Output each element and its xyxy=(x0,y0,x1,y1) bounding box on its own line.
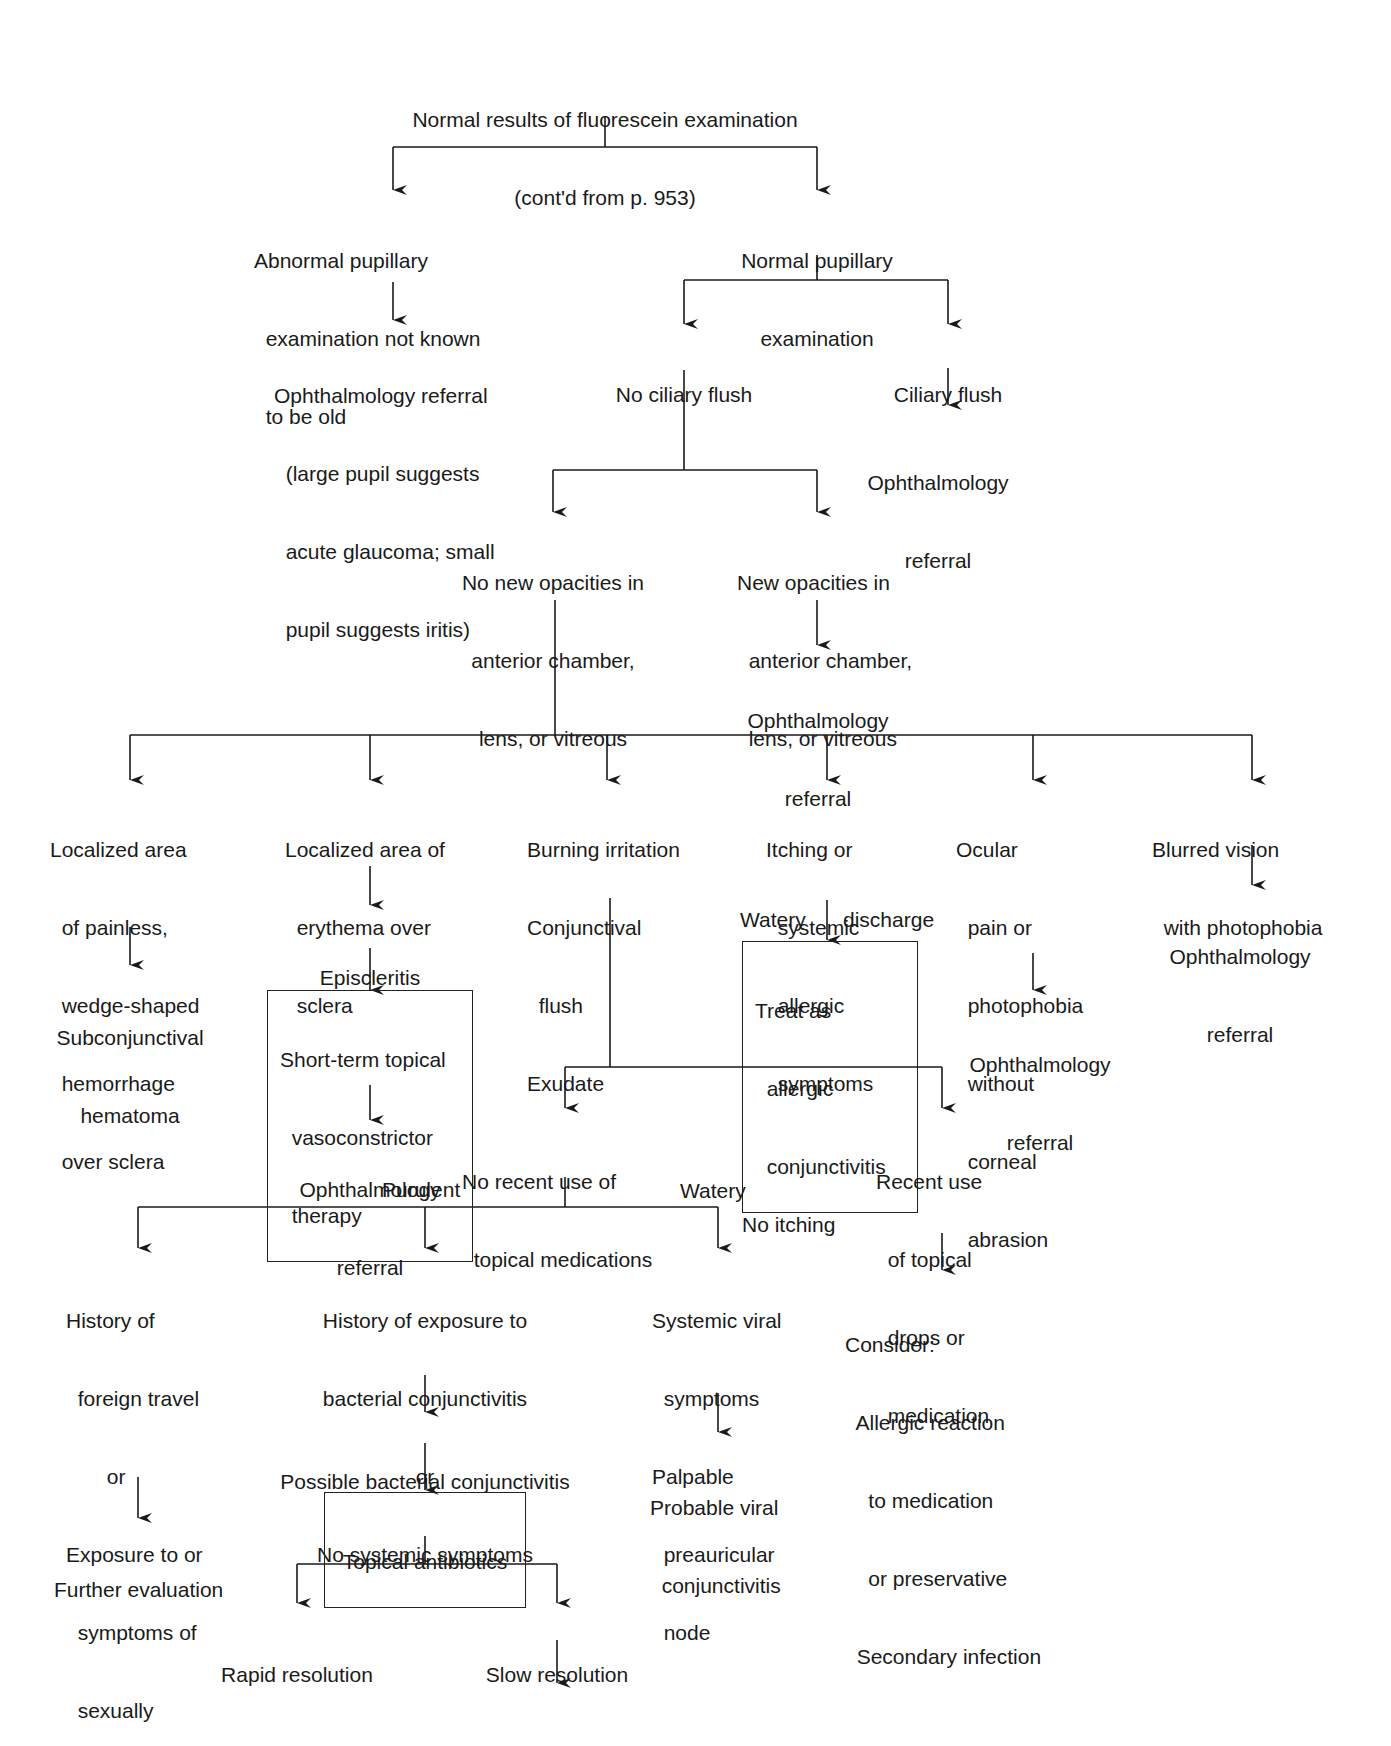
node-text: Treat as xyxy=(755,998,905,1024)
node-foreign-travel-std: History of foreign travel or Exposure to… xyxy=(66,1256,203,1746)
node-no-ciliary-flush: No ciliary flush xyxy=(584,330,784,434)
node-text: foreign travel xyxy=(66,1386,203,1412)
node-text: Recent use xyxy=(876,1169,989,1195)
node-text: Localized area xyxy=(50,837,199,863)
node-text: Ophthalmology xyxy=(858,470,1018,496)
node-text: Ocular xyxy=(956,837,1083,863)
node-text: New opacities in xyxy=(737,570,912,596)
node-text: Localized area of xyxy=(285,837,445,863)
node-subconjunctival-hematoma: Subconjunctival hematoma xyxy=(40,973,220,1155)
edge-label-discharge: discharge xyxy=(843,907,934,933)
node-text: Normal results of fluorescein examinatio… xyxy=(380,107,830,133)
node-text: Consider: xyxy=(845,1332,1041,1358)
node-text: Ophthalmology referral xyxy=(432,1742,682,1746)
node-text: Ophthalmology xyxy=(950,1052,1130,1078)
node-topical-antibiotics: Topical antibiotics xyxy=(324,1492,526,1608)
node-text: allergic xyxy=(755,1076,905,1102)
node-text: Further evaluation xyxy=(54,1577,223,1603)
node-consider: Consider: Allergic reaction to medicatio… xyxy=(845,1280,1041,1696)
node-text: No recent use of xyxy=(462,1169,652,1195)
node-text: of painless, xyxy=(50,915,199,941)
node-text: Allergic reaction xyxy=(845,1410,1041,1436)
node-text: or xyxy=(66,1464,203,1490)
node-text: Itching or xyxy=(766,837,873,863)
node-text: Ophthalmology referral xyxy=(274,383,495,409)
node-text: anterior chamber, xyxy=(448,648,658,674)
node-text: Burning irritation xyxy=(527,837,680,863)
node-text: Ophthalmology xyxy=(728,708,908,734)
node-text: No new opacities in xyxy=(448,570,658,596)
node-slow-referral: Ophthalmology referral xyxy=(432,1690,682,1746)
flowchart-canvas: Normal results of fluorescein examinatio… xyxy=(0,0,1391,1746)
edge-label-watery: Watery xyxy=(680,1178,746,1204)
edge-label-watery: Watery xyxy=(740,907,806,933)
node-text: lens, or vitreous xyxy=(448,726,658,752)
node-text: Rapid resolution xyxy=(207,1662,387,1688)
node-text: or preservative xyxy=(845,1566,1041,1592)
node-text: Conjunctival xyxy=(527,915,680,941)
node-text: Subconjunctival xyxy=(40,1025,220,1051)
node-text: symptoms xyxy=(652,1386,782,1412)
node-text: flush xyxy=(527,993,680,1019)
edge-label-purulent: Purulent xyxy=(382,1177,460,1203)
node-text: bacterial conjunctivitis xyxy=(295,1386,555,1412)
node-text: (large pupil suggests xyxy=(274,461,495,487)
node-rapid-resolution: Rapid resolution xyxy=(207,1610,387,1714)
node-burning-irritation: Burning irritation Conjunctival flush Ex… xyxy=(527,785,680,1123)
node-text: Short-term topical xyxy=(280,1047,460,1073)
node-blurred-referral: Ophthalmology referral xyxy=(1150,892,1330,1074)
node-text: Blurred vision xyxy=(1152,837,1322,863)
node-text: conjunctivitis xyxy=(650,1573,781,1599)
node-probable-viral: Probable viral conjunctivitis xyxy=(650,1443,781,1625)
node-text: to medication xyxy=(845,1488,1041,1514)
node-text: Ciliary flush xyxy=(868,382,1028,408)
node-text: Episcleritis xyxy=(300,965,440,991)
node-text: Abnormal pupillary xyxy=(254,248,480,274)
node-text: Slow resolution xyxy=(472,1662,642,1688)
node-text: hematoma xyxy=(40,1103,220,1129)
edge-label-no-itching: No itching xyxy=(742,1212,835,1238)
node-text: referral xyxy=(1150,1022,1330,1048)
node-text: History of exposure to xyxy=(295,1308,555,1334)
node-no-new-opacities: No new opacities in anterior chamber, le… xyxy=(448,518,658,778)
node-text: History of xyxy=(66,1308,203,1334)
node-text: pain or xyxy=(956,915,1083,941)
node-further-evaluation: Further evaluation xyxy=(54,1525,223,1629)
node-text: Normal pupillary xyxy=(707,248,927,274)
node-text: Exudate xyxy=(527,1071,680,1097)
node-text: sexually xyxy=(66,1698,203,1724)
node-text: of topical xyxy=(876,1247,989,1273)
node-text: Secondary infection xyxy=(845,1644,1041,1670)
node-text: Topical antibiotics xyxy=(337,1549,513,1575)
node-text: Probable viral xyxy=(650,1495,781,1521)
node-text: No ciliary flush xyxy=(584,382,784,408)
node-text: Ophthalmology xyxy=(1150,944,1330,970)
node-text: Systemic viral xyxy=(652,1308,782,1334)
